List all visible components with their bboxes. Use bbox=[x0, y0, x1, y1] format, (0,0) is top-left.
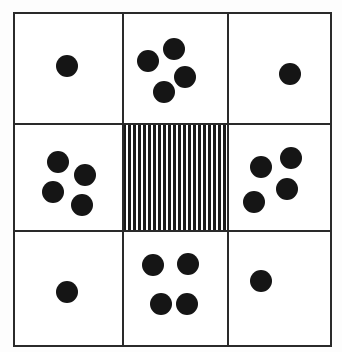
cell-middle-right bbox=[228, 124, 331, 231]
dot bbox=[137, 50, 159, 72]
dot bbox=[153, 81, 175, 103]
dot bbox=[150, 293, 172, 315]
cell-bottom-middle bbox=[123, 231, 228, 346]
grid-line-vertical bbox=[122, 12, 124, 347]
dot bbox=[42, 181, 64, 203]
dot bbox=[174, 66, 196, 88]
dot bbox=[56, 55, 78, 77]
dot bbox=[47, 151, 69, 173]
dot bbox=[176, 293, 198, 315]
dot bbox=[276, 178, 298, 200]
grid-line-horizontal bbox=[13, 12, 332, 14]
cell-top-middle bbox=[123, 13, 228, 124]
cell-bottom-right bbox=[228, 231, 331, 346]
grid-line-vertical bbox=[227, 12, 229, 347]
grid-line-horizontal bbox=[13, 123, 332, 125]
dot bbox=[56, 281, 78, 303]
dot bbox=[243, 191, 265, 213]
dot bbox=[71, 194, 93, 216]
grid-line-horizontal bbox=[13, 345, 332, 347]
dot bbox=[250, 156, 272, 178]
grid-line-vertical bbox=[330, 12, 332, 347]
dot bbox=[177, 253, 199, 275]
cell-middle-left bbox=[14, 124, 123, 231]
dot bbox=[163, 38, 185, 60]
dot bbox=[74, 164, 96, 186]
grid-line-horizontal bbox=[13, 230, 332, 232]
grid-line-vertical bbox=[13, 12, 15, 347]
dot bbox=[250, 270, 272, 292]
cell-center bbox=[123, 124, 228, 231]
dot bbox=[142, 254, 164, 276]
grid-figure bbox=[0, 0, 342, 352]
dot bbox=[279, 63, 301, 85]
dot bbox=[280, 147, 302, 169]
